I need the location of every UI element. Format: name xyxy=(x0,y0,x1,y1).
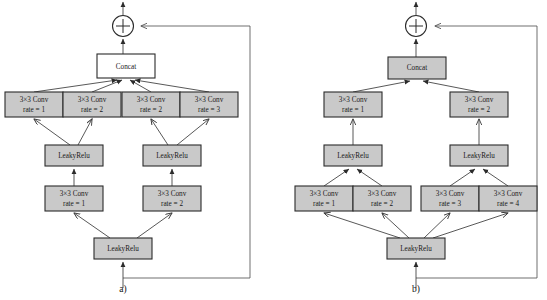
panel-a-conv-top-1-line2: rate = 1 xyxy=(23,106,45,114)
panel-b-bconv1-to-act1 xyxy=(324,169,349,186)
panel-b-leakyrelu-bottom[interactable]: LeakyRelu xyxy=(387,238,445,259)
panel-b: Concat 3×3 Conv rate = 1 3×3 Conv rate =… xyxy=(295,2,537,295)
panel-b-bconv2-to-act1 xyxy=(357,169,382,186)
panel-a-conv-top-3-line2: rate = 2 xyxy=(140,106,162,114)
panel-a-conv-top-3-line1: 3×3 Conv xyxy=(137,96,166,104)
panel-b-conv-top-2-line2: rate = 2 xyxy=(468,106,490,114)
panel-a-conv-mid-2-line1: 3×3 Conv xyxy=(158,190,187,198)
panel-b-conv-top-1-line1: 3×3 Conv xyxy=(339,96,368,104)
panel-b-leakyrelu-bottom-label: LeakyRelu xyxy=(400,245,432,253)
panel-b-bconv4-to-act2 xyxy=(483,169,508,186)
panel-b-conv-bottom-4[interactable]: 3×3 Conv rate = 4 xyxy=(479,186,537,211)
figure-root: Concat 3×3 Conv rate = 1 3×3 Conv rate =… xyxy=(0,0,547,300)
panel-a-conv-top-4[interactable]: 3×3 Conv rate = 3 xyxy=(180,92,238,117)
panel-a-leakyrelu-mid-right-label: LeakyRelu xyxy=(156,152,188,160)
panel-b-conv1-to-concat xyxy=(353,81,410,92)
panel-a-concat-label: Concat xyxy=(116,63,136,71)
panel-b-conv-bottom-3[interactable]: 3×3 Conv rate = 3 xyxy=(421,186,479,211)
panel-b-conv-bottom-1-line2: rate = 1 xyxy=(313,200,335,208)
panel-a-conv-mid-1[interactable]: 3×3 Conv rate = 1 xyxy=(45,186,103,211)
panel-a-conv-top-4-line2: rate = 3 xyxy=(198,106,220,114)
panel-a-bottomact-to-midconv2 xyxy=(137,213,172,238)
panel-a-bottomact-to-midconv1 xyxy=(74,213,110,238)
panel-b-leakyrelu-mid-left[interactable]: LeakyRelu xyxy=(324,145,382,166)
panel-b-conv-bottom-2-line1: 3×3 Conv xyxy=(368,190,397,198)
panel-a-act2-to-conv3 xyxy=(151,119,168,145)
panel-a-conv-mid-2-line2: rate = 2 xyxy=(161,200,183,208)
panel-b-bconv3-to-act2 xyxy=(450,169,475,186)
panel-a-leakyrelu-bottom[interactable]: LeakyRelu xyxy=(94,238,152,259)
panel-b-conv-bottom-3-line1: 3×3 Conv xyxy=(436,190,465,198)
panel-a-act1-to-conv1 xyxy=(34,119,70,145)
panel-a-conv-top-2-line1: 3×3 Conv xyxy=(78,96,107,104)
panel-a-conv-top-1-line1: 3×3 Conv xyxy=(20,96,49,104)
panel-a: Concat 3×3 Conv rate = 1 3×3 Conv rate =… xyxy=(5,2,250,295)
panel-a-conv-mid-2[interactable]: 3×3 Conv rate = 2 xyxy=(143,186,201,211)
panel-b-leakyrelu-mid-left-label: LeakyRelu xyxy=(337,152,369,160)
panel-a-conv-mid-1-line1: 3×3 Conv xyxy=(60,190,89,198)
panel-b-conv-top-2[interactable]: 3×3 Conv rate = 2 xyxy=(450,92,508,117)
panel-b-conv-bottom-2[interactable]: 3×3 Conv rate = 2 xyxy=(353,186,411,211)
panel-b-leakyrelu-mid-right-label: LeakyRelu xyxy=(463,152,495,160)
panel-a-conv-top-3[interactable]: 3×3 Conv rate = 2 xyxy=(122,92,180,117)
panel-b-conv-bottom-1-line1: 3×3 Conv xyxy=(310,190,339,198)
panel-b-conv2-to-concat xyxy=(423,81,479,92)
diagram-canvas: Concat 3×3 Conv rate = 1 3×3 Conv rate =… xyxy=(0,0,547,300)
panel-a-act2-to-conv4 xyxy=(177,119,209,145)
panel-b-conv-bottom-1[interactable]: 3×3 Conv rate = 1 xyxy=(295,186,353,211)
panel-b-conv-top-2-line1: 3×3 Conv xyxy=(465,96,494,104)
panel-b-caption: b) xyxy=(412,284,420,295)
panel-a-leakyrelu-mid-left[interactable]: LeakyRelu xyxy=(45,145,103,166)
panel-a-act1-to-conv2 xyxy=(78,119,92,145)
panel-b-bottomact-to-bconv3 xyxy=(424,213,450,238)
panel-b-bottomact-to-bconv4 xyxy=(433,213,508,238)
panel-b-conv-bottom-3-line2: rate = 3 xyxy=(439,200,461,208)
panel-a-conv-top-2[interactable]: 3×3 Conv rate = 2 xyxy=(63,92,121,117)
panel-a-conv-top-1[interactable]: 3×3 Conv rate = 1 xyxy=(5,92,63,117)
panel-a-leakyrelu-mid-right[interactable]: LeakyRelu xyxy=(143,145,201,166)
panel-a-caption: a) xyxy=(119,284,126,295)
panel-b-bottomact-to-bconv2 xyxy=(382,213,409,238)
panel-b-conv-top-1[interactable]: 3×3 Conv rate = 1 xyxy=(324,92,382,117)
panel-b-conv-top-1-line2: rate = 1 xyxy=(342,106,364,114)
panel-a-conv-top-2-line2: rate = 2 xyxy=(81,106,103,114)
panel-a-conv-mid-1-line2: rate = 1 xyxy=(63,200,85,208)
panel-b-conv-bottom-2-line2: rate = 2 xyxy=(371,200,393,208)
panel-b-conv-bottom-4-line1: 3×3 Conv xyxy=(494,190,523,198)
panel-a-conv4-to-concat xyxy=(135,80,209,92)
panel-b-conv-bottom-4-line2: rate = 4 xyxy=(497,200,519,208)
panel-a-leakyrelu-bottom-label: LeakyRelu xyxy=(107,245,139,253)
panel-b-leakyrelu-mid-right[interactable]: LeakyRelu xyxy=(450,145,508,166)
panel-a-conv1-to-concat xyxy=(34,80,117,92)
panel-b-bottomact-to-bconv1 xyxy=(324,213,400,238)
panel-b-concat-label: Concat xyxy=(407,64,427,72)
panel-a-conv-top-4-line1: 3×3 Conv xyxy=(195,96,224,104)
panel-a-leakyrelu-mid-left-label: LeakyRelu xyxy=(58,152,90,160)
